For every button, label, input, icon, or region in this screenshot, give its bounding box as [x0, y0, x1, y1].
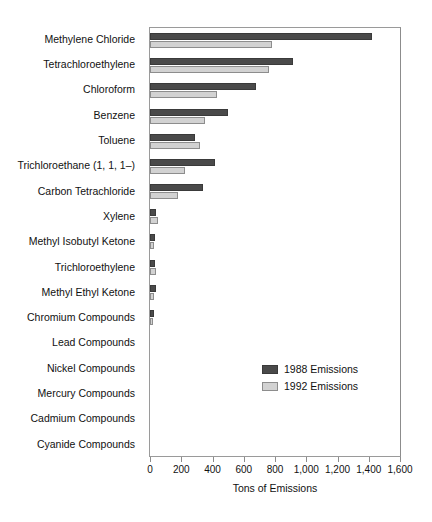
x-tick-mark: [338, 457, 339, 462]
x-tick-mark: [275, 457, 276, 462]
bar-1992: [150, 66, 269, 73]
bar-1988: [150, 33, 372, 40]
category-label: Methylene Chloride: [0, 27, 142, 52]
legend-swatch-1988-icon: [262, 365, 278, 374]
x-axis-ticks: [149, 457, 401, 463]
bar-1988: [150, 310, 154, 317]
bar-1992: [150, 217, 158, 224]
bar-1988: [150, 83, 256, 90]
bar-1992: [150, 167, 185, 174]
bar-1992: [150, 242, 154, 249]
x-axis-tick-labels: 02004006008001,0001,2001,4001,600: [0, 464, 432, 478]
category-label: Chromium Compounds: [0, 305, 142, 330]
legend-item-1988: 1988 Emissions: [262, 362, 358, 376]
bar-1988: [150, 58, 293, 65]
x-tick-label: 600: [235, 464, 252, 475]
legend-label-1992: 1992 Emissions: [284, 380, 358, 392]
x-tick-mark: [369, 457, 370, 462]
bar-group: [150, 305, 400, 330]
bar-1988: [150, 109, 228, 116]
bar-group: [150, 154, 400, 179]
bar-group: [150, 431, 400, 456]
x-tick-label: 1,000: [294, 464, 319, 475]
x-tick-label: 400: [204, 464, 221, 475]
category-label: Methyl Ethyl Ketone: [0, 280, 142, 305]
bar-group: [150, 280, 400, 305]
x-tick-label: 1,200: [325, 464, 350, 475]
category-label: Cadmium Compounds: [0, 406, 142, 431]
category-label: Methyl Isobutyl Ketone: [0, 229, 142, 254]
category-axis-labels: Methylene ChlorideTetrachloroethyleneChl…: [0, 27, 142, 457]
bar-1992: [150, 293, 154, 300]
category-label: Mercury Compounds: [0, 381, 142, 406]
category-label: Toluene: [0, 128, 142, 153]
bar-1988: [150, 260, 155, 267]
bar-group: [150, 229, 400, 254]
legend-swatch-1992-icon: [262, 382, 278, 391]
bar-1992: [150, 192, 178, 199]
category-label: Carbon Tetrachloride: [0, 179, 142, 204]
bar-1988: [150, 234, 155, 241]
bar-1988: [150, 184, 203, 191]
bar-group: [150, 179, 400, 204]
x-tick-label: 1,400: [356, 464, 381, 475]
category-label: Lead Compounds: [0, 331, 142, 356]
bar-group: [150, 104, 400, 129]
bar-group: [150, 330, 400, 355]
x-tick-label: 0: [147, 464, 153, 475]
bar-1992: [150, 117, 205, 124]
bar-1992: [150, 318, 153, 325]
bar-group: [150, 406, 400, 431]
emissions-bar-chart: Methylene ChlorideTetrachloroethyleneChl…: [0, 0, 432, 522]
category-label: Trichloroethylene: [0, 255, 142, 280]
bar-1992: [150, 142, 200, 149]
x-axis-title: Tons of Emissions: [149, 482, 401, 494]
category-label: Nickel Compounds: [0, 356, 142, 381]
x-tick-mark: [213, 457, 214, 462]
bar-group: [150, 78, 400, 103]
category-label: Xylene: [0, 204, 142, 229]
category-label: Chloroform: [0, 78, 142, 103]
category-label: Trichloroethane (1, 1, 1–): [0, 153, 142, 178]
bar-1988: [150, 285, 156, 292]
x-tick-mark: [306, 457, 307, 462]
legend-label-1988: 1988 Emissions: [284, 363, 358, 375]
bar-1992: [150, 41, 272, 48]
x-tick-mark: [181, 457, 182, 462]
chart-legend: 1988 Emissions 1992 Emissions: [262, 362, 358, 396]
bar-group: [150, 204, 400, 229]
x-tick-mark: [244, 457, 245, 462]
bar-group: [150, 255, 400, 280]
category-label: Cyanide Compounds: [0, 432, 142, 457]
bar-1992: [150, 268, 156, 275]
x-tick-label: 200: [173, 464, 190, 475]
bar-1988: [150, 209, 156, 216]
bar-1988: [150, 159, 215, 166]
bar-group: [150, 28, 400, 53]
category-label: Benzene: [0, 103, 142, 128]
x-tick-label: 1,600: [387, 464, 412, 475]
bar-group: [150, 129, 400, 154]
bar-1988: [150, 134, 195, 141]
x-tick-label: 800: [267, 464, 284, 475]
bar-1992: [150, 91, 217, 98]
legend-item-1992: 1992 Emissions: [262, 379, 358, 393]
bar-group: [150, 53, 400, 78]
category-label: Tetrachloroethylene: [0, 52, 142, 77]
x-tick-mark: [400, 457, 401, 462]
x-tick-mark: [150, 457, 151, 462]
